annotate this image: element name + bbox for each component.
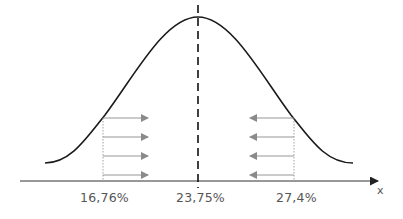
bell-curve — [45, 17, 353, 163]
distribution-diagram — [0, 0, 403, 219]
axis-label-x: x — [377, 184, 384, 197]
mean-label: 23,75% — [176, 190, 225, 205]
left-arrows — [103, 118, 148, 175]
left-bound-label: 16,76% — [80, 190, 129, 205]
right-arrows — [250, 118, 294, 175]
right-bound-label: 27,4% — [276, 190, 317, 205]
